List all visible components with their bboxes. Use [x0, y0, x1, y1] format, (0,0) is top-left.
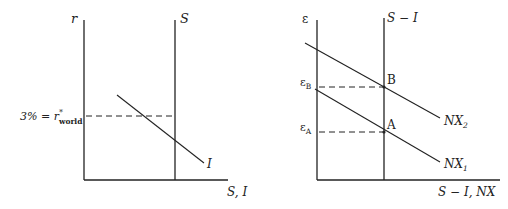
- right-x-axis-label: S − I, NX: [438, 185, 496, 199]
- nx1-curve: [315, 89, 440, 162]
- point-b-marker: [382, 85, 385, 88]
- left-y-axis-label: r: [71, 11, 78, 26]
- right-y-axis-label: ε: [302, 12, 308, 26]
- saving-curve-label: S: [180, 11, 189, 26]
- epsilon-a-label: εA: [300, 121, 312, 136]
- right-panel: [305, 18, 500, 180]
- nx1-label: NX1: [443, 157, 468, 173]
- world-rate-label: 3% = r*world: [20, 108, 83, 126]
- left-panel: [84, 20, 228, 180]
- left-x-axis-label: S, I: [227, 185, 247, 199]
- saving-minus-investment-label: S − I: [387, 11, 418, 25]
- svg-text:εB: εB: [300, 76, 312, 91]
- economics-diagram: r S I S, I 3% = r*world ε S − I B A εB ε…: [0, 0, 508, 209]
- investment-curve-label: I: [206, 157, 212, 171]
- svg-text:3% = r*world: 3% = r*world: [20, 108, 83, 126]
- investment-curve: [117, 95, 204, 163]
- point-b-label: B: [387, 73, 396, 87]
- point-a-label: A: [386, 118, 396, 132]
- svg-text:NX1: NX1: [443, 157, 468, 173]
- svg-text:NX2: NX2: [443, 114, 468, 130]
- epsilon-b-label: εB: [300, 76, 312, 91]
- svg-text:εA: εA: [300, 121, 312, 136]
- nx2-label: NX2: [443, 114, 468, 130]
- point-a-marker: [382, 130, 385, 133]
- nx2-curve: [305, 43, 440, 118]
